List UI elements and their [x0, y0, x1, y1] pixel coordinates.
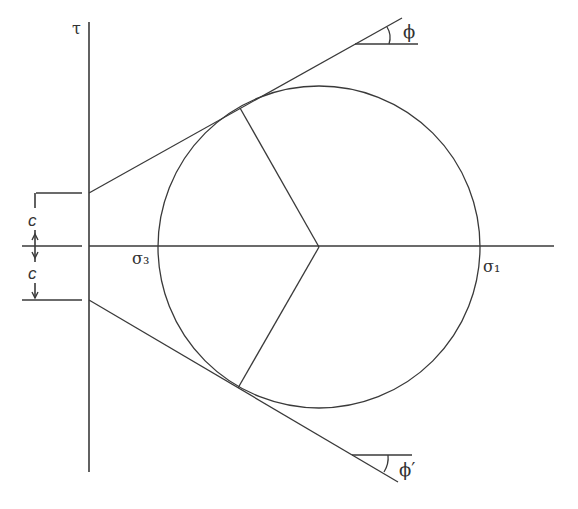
- phi-label: ϕ: [403, 21, 415, 42]
- phi-prime-label: ϕ′: [399, 459, 415, 480]
- mohr-circle-diagram: τ σ₃ σ₁ c c ϕ ϕ′: [0, 0, 578, 509]
- lower-radius: [238, 247, 319, 388]
- upper-radius: [240, 108, 319, 247]
- phi-prime-angle-arc: [384, 455, 388, 472]
- sigma3-label: σ₃: [132, 249, 149, 268]
- phi-angle-arc: [387, 27, 390, 44]
- cohesion-upper-label: c: [28, 211, 37, 230]
- lower-failure-envelope: [89, 300, 398, 482]
- tau-axis-label: τ: [72, 19, 81, 38]
- cohesion-lower-label: c: [28, 264, 37, 283]
- sigma1-label: σ₁: [483, 257, 500, 276]
